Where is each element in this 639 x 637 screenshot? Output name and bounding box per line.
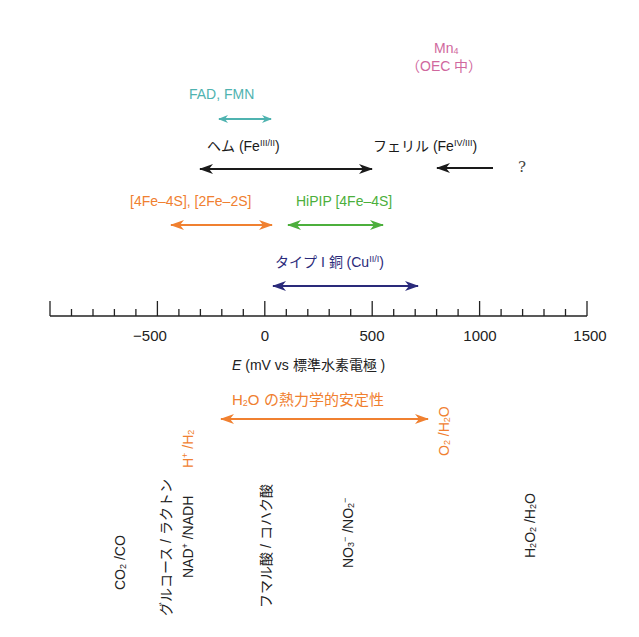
- heme-paren: ): [275, 138, 280, 154]
- fes-cluster-label: [4Fe–4S], [2Fe–2S]: [130, 193, 251, 209]
- heme-oxidation-state: III/II: [260, 138, 275, 148]
- heme-label: ヘム (FeIII/II): [207, 138, 280, 154]
- couple-o2-h2o: O2 /H2O: [436, 406, 452, 456]
- tick-label-1500: 1500: [573, 327, 606, 344]
- mn-subscript: 4: [453, 46, 458, 56]
- copper-oxidation-state: II/I: [369, 254, 379, 264]
- peroxide-h-subscript: 2: [528, 543, 538, 548]
- nad-text: NAD: [180, 548, 196, 578]
- flavin-label: FAD, FMN: [189, 86, 254, 102]
- couple-nad-nadh: NAD+ /NADH: [180, 496, 196, 578]
- couple-glucose-lactone: グルコース / ラクトン: [158, 479, 174, 616]
- nitrite-text: /NO: [340, 508, 356, 537]
- h2-subscript: 2: [186, 430, 196, 435]
- oec-label: （OEC 中）: [406, 58, 482, 74]
- mn-text: Mn: [434, 40, 453, 56]
- h2o-h-subscript: 2: [528, 504, 538, 509]
- axis-title-unit: (mV vs 標準水素電極 ): [241, 357, 385, 373]
- copper-text: タイプ I 銅 (Cu: [275, 254, 369, 270]
- h2-text: /H: [180, 435, 196, 453]
- peroxide-o-text: O: [522, 532, 538, 543]
- peroxide-h-text: H: [522, 548, 538, 558]
- tick-label-1000: 1000: [463, 327, 496, 344]
- copper-paren: ): [379, 254, 384, 270]
- ferryl-paren: ): [472, 138, 477, 154]
- water-h-text: /H: [436, 422, 452, 440]
- water-text: O の熱力学的安定性: [248, 391, 384, 408]
- ferryl-oxidation-state: IV/III: [454, 138, 473, 148]
- proton-text: H: [180, 458, 196, 468]
- couple-h2o2-h2o: H2O2 /H2O: [522, 493, 538, 558]
- couple-nitrate-nitrite: NO3− /NO2−: [340, 498, 356, 568]
- diagram-graphics: [0, 0, 639, 637]
- water-stability-label: H2O の熱力学的安定性: [232, 392, 384, 408]
- water-o-text: O: [436, 406, 452, 417]
- nitrate-text: NO: [340, 547, 356, 568]
- couple-fumarate-succinate: フマル酸 / コハク酸: [258, 484, 274, 608]
- water-h-subscript: 2: [442, 417, 452, 422]
- nitrite-subscript: 2: [346, 503, 356, 508]
- co2-subscript: 2: [118, 564, 128, 569]
- tick-label-0: 0: [261, 327, 269, 344]
- nadh-text: /NADH: [180, 496, 196, 543]
- o2-text: O: [436, 445, 452, 456]
- hipip-label: HiPIP [4Fe–4S]: [296, 193, 392, 209]
- ferryl-label: フェリル (FeIV/III): [373, 138, 477, 154]
- proton-superscript: +: [180, 453, 190, 458]
- unknown-bound-mark: ?: [518, 159, 526, 175]
- couple-co2-co: CO2 /CO: [112, 535, 128, 590]
- water-h: H: [232, 391, 243, 408]
- axis-ticks: [50, 301, 587, 316]
- water-subscript: 2: [243, 398, 248, 408]
- mn4-label: Mn4: [434, 40, 458, 56]
- co2-text: CO: [112, 569, 128, 590]
- couple-h-h2: H+ /H2: [180, 430, 196, 468]
- h2o-o-text: O: [522, 493, 538, 504]
- nad-superscript: +: [180, 543, 190, 548]
- heme-text: ヘム (Fe: [207, 138, 260, 154]
- type1-copper-label: タイプ I 銅 (CuII/I): [275, 254, 384, 270]
- ferryl-text: フェリル (Fe: [373, 138, 454, 154]
- h2o-h-text: /H: [522, 509, 538, 527]
- nitrate-charge: −: [340, 537, 350, 542]
- nitrate-subscript: 3: [346, 542, 356, 547]
- axis-title-symbol: E: [232, 357, 241, 373]
- nitrite-charge: −: [340, 498, 350, 503]
- axis-title: E (mV vs 標準水素電極 ): [232, 357, 385, 373]
- co-text: /CO: [112, 535, 128, 564]
- tick-label-minus500: −500: [133, 327, 167, 344]
- tick-label-500: 500: [359, 327, 384, 344]
- peroxide-o-subscript: 2: [528, 527, 538, 532]
- o2-subscript: 2: [442, 440, 452, 445]
